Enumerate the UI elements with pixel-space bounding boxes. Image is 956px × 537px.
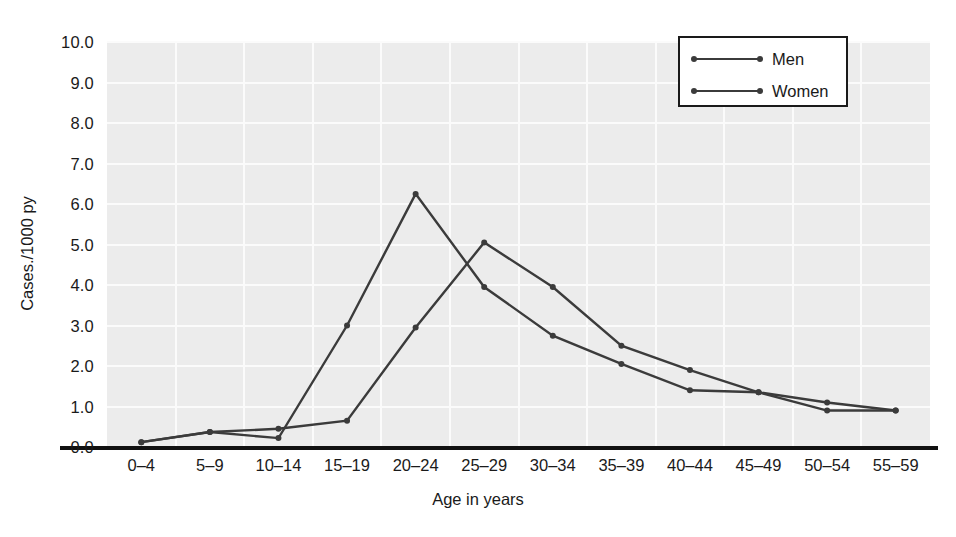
x-axis-tick-labels: 0–45–910–1415–1920–2425–2930–3435–3940–4… xyxy=(107,455,930,479)
series-line-women xyxy=(141,194,895,442)
x-axis-tick-label: 55–59 xyxy=(851,455,941,475)
y-axis-tick-label: 5.0 xyxy=(42,237,94,254)
y-axis-tick-label: 9.0 xyxy=(42,75,94,92)
legend-line-sample-men xyxy=(691,53,763,65)
legend-marker-right-icon xyxy=(757,88,763,94)
legend-marker-right-icon xyxy=(757,56,763,62)
data-point-marker xyxy=(687,367,693,373)
line-chart-figure: 10.09.08.07.06.05.04.03.02.01.00.0 Cases… xyxy=(0,0,956,537)
data-point-marker xyxy=(893,408,899,414)
y-axis-tick-label: 3.0 xyxy=(42,318,94,335)
data-point-marker xyxy=(618,343,624,349)
series-line-men xyxy=(141,242,895,442)
data-point-marker xyxy=(550,333,556,339)
data-point-marker xyxy=(756,389,762,395)
legend-entry-women: Women xyxy=(691,80,829,102)
y-axis-tick-label: 0.0 xyxy=(42,439,94,456)
data-point-marker xyxy=(413,191,419,197)
data-point-marker xyxy=(687,387,693,393)
y-axis-tick-label: 8.0 xyxy=(42,115,94,132)
legend-line-icon xyxy=(693,58,761,60)
data-point-marker xyxy=(481,239,487,245)
y-axis-tick-label: 4.0 xyxy=(42,277,94,294)
data-point-marker xyxy=(550,284,556,290)
x-axis-title: Age in years xyxy=(0,490,956,509)
data-point-marker xyxy=(481,284,487,290)
legend: Men Women xyxy=(678,36,848,107)
data-point-marker xyxy=(824,399,830,405)
data-point-marker xyxy=(275,435,281,441)
y-axis-tick-labels: 10.09.08.07.06.05.04.03.02.01.00.0 xyxy=(42,0,94,537)
data-point-marker xyxy=(275,426,281,432)
y-axis-tick-label: 6.0 xyxy=(42,196,94,213)
y-axis-tick-label: 1.0 xyxy=(42,399,94,416)
y-axis-tick-label: 2.0 xyxy=(42,358,94,375)
legend-line-icon xyxy=(693,90,761,92)
data-point-marker xyxy=(344,418,350,424)
data-point-marker xyxy=(344,323,350,329)
legend-label-women: Women xyxy=(772,83,829,100)
legend-entry-men: Men xyxy=(691,48,804,70)
data-point-marker xyxy=(413,325,419,331)
y-axis-tick-label: 7.0 xyxy=(42,156,94,173)
legend-label-men: Men xyxy=(772,51,804,68)
data-point-marker xyxy=(824,408,830,414)
data-point-marker xyxy=(618,361,624,367)
y-axis-title: Cases./1000 py xyxy=(18,154,37,354)
x-axis-line xyxy=(60,446,938,450)
y-axis-tick-label: 10.0 xyxy=(42,34,94,51)
data-point-marker xyxy=(138,439,144,445)
legend-line-sample-women xyxy=(691,85,763,97)
data-point-marker xyxy=(207,429,213,435)
